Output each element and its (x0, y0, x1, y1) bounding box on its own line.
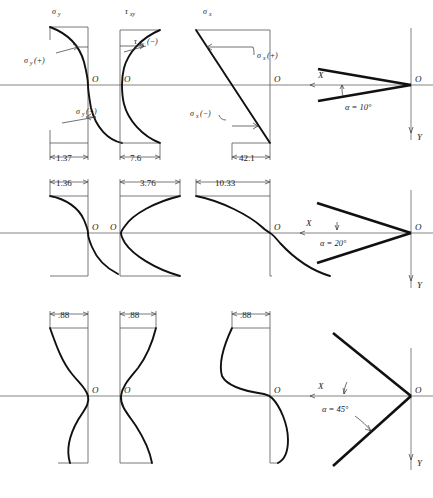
panel-sigma-x-20-curve (196, 196, 330, 276)
panel-sigma-y-10-origin: O (92, 74, 99, 84)
wedge-45-x-axis-label: X (317, 381, 324, 391)
panel-sigma-y-45-curve (50, 328, 88, 463)
panel-sigma-x-45-origin: O (274, 385, 281, 395)
wedge-10-origin: O (415, 74, 422, 84)
panel-tau-xy-45-dimension: .88 (120, 310, 156, 328)
panel-tau-xy-10-origin: O (124, 74, 131, 84)
panel-tau-xy-20-dimension-text: 3.76 (140, 178, 156, 188)
wedge-45-angle-label: α = 45° (322, 404, 349, 414)
panel-sigma-y-20-dimension: 1.36 (50, 178, 88, 196)
panel-sigma-y-10-dimension: 1.37 (50, 143, 88, 163)
svg-text:x: x (262, 55, 266, 61)
wedge-10-lower-edge (318, 85, 411, 101)
wedge-10-angle-label: α = 10° (345, 102, 372, 112)
svg-text:y: y (57, 11, 61, 17)
svg-text:σ: σ (52, 7, 57, 16)
svg-text:x: x (195, 113, 199, 119)
panel-sigma-y-20-dimension-text: 1.36 (56, 178, 72, 188)
wedge-45-y-axis-label: Y (417, 458, 423, 468)
panel-tau-xy-45: O .88 (120, 310, 156, 463)
panel-sigma-x-10-annotation-plus: σ x (+) (207, 44, 278, 61)
wedge-45-angle-leader (355, 416, 371, 431)
panel-tau-xy-45-origin: O (124, 385, 131, 395)
wedge-10-upper-edge (318, 69, 411, 85)
svg-text:xy: xy (129, 11, 136, 17)
panel-tau-xy-20-curve (121, 196, 180, 276)
svg-text:(−): (−) (147, 37, 158, 46)
svg-text:σ: σ (76, 107, 81, 116)
panel-sigma-y-10-dimension-text: 1.37 (56, 153, 72, 163)
svg-text:σ: σ (190, 109, 195, 118)
panel-tau-xy-20-origin: O (110, 222, 117, 232)
stress-distribution-figure: O σ y σ y (+) σ y (−) (0, 0, 433, 498)
panel-sigma-x-10-origin: O (274, 74, 281, 84)
svg-text:(+): (+) (34, 56, 45, 65)
panel-sigma-x-45-dimension: .88 (232, 310, 270, 328)
panel-sigma-x-10-dimension: 42.1 (232, 143, 270, 163)
panel-sigma-x-10-dimension-text: 42.1 (239, 153, 255, 163)
panel-tau-xy-10-annotation-minus: τ xy (−) (120, 37, 158, 52)
panel-sigma-y-10-annotation-minus: σ y (−) (62, 107, 97, 123)
panel-sigma-y-20-curve (50, 196, 118, 274)
wedge-20-y-axis-label: Y (417, 280, 423, 290)
wedge-45-angle-arc (344, 382, 347, 394)
svg-text:τ: τ (125, 7, 129, 16)
svg-text:(+): (+) (267, 51, 278, 60)
panel-tau-xy-45-curve (121, 328, 156, 463)
svg-text:(−): (−) (200, 109, 211, 118)
panel-sigma-y-45-dimension-text: .88 (58, 310, 70, 320)
wedge-20-origin: O (415, 222, 422, 232)
wedge-45-origin: O (415, 385, 422, 395)
panel-sigma-y-45: O .88 (50, 310, 99, 463)
wedge-45-upper-edge (333, 333, 411, 396)
svg-text:xy: xy (138, 41, 145, 47)
wedge-10-y-axis-label: Y (417, 132, 423, 142)
panel-tau-xy-45-dimension-text: .88 (128, 310, 140, 320)
panel-tau-xy-10-quantity-label: τ xy (125, 7, 136, 17)
panel-sigma-y-20-origin: O (92, 222, 99, 232)
panel-sigma-y-45-origin: O (92, 385, 99, 395)
panel-tau-xy-10-dimension: 7.6 (120, 143, 160, 163)
wedge-20-upper-edge (317, 203, 411, 233)
panel-sigma-y-45-dimension: .88 (50, 310, 88, 328)
wedge-alpha-20: α = 20° O X Y (300, 190, 423, 290)
svg-text:y: y (29, 60, 33, 66)
svg-text:y: y (81, 111, 85, 117)
wedge-20-x-axis-label: X (305, 218, 312, 228)
panel-sigma-x-20-dimension-text: 10.33 (215, 178, 236, 188)
panel-sigma-x-45-dimension-text: .88 (240, 310, 252, 320)
row-alpha-45: O .88 O .88 (0, 310, 433, 470)
panel-sigma-x-20-origin: O (274, 222, 281, 232)
panel-tau-xy-10-dimension-text: 7.6 (130, 153, 142, 163)
svg-text:σ: σ (257, 51, 262, 60)
panel-sigma-x-10-annotation-minus: σ x (−) (190, 109, 258, 129)
svg-text:(−): (−) (86, 107, 97, 116)
svg-text:σ: σ (203, 7, 208, 16)
panel-sigma-x-45: O .88 (221, 310, 288, 463)
svg-text:σ: σ (24, 56, 29, 65)
panel-sigma-y-20: O 1.36 (50, 178, 118, 276)
panel-tau-xy-20: O 3.76 (110, 178, 180, 276)
svg-text:x: x (208, 11, 212, 17)
wedge-45-angle-arrow (343, 388, 347, 394)
panel-sigma-x-10-quantity-label: σ x (203, 7, 212, 17)
panel-sigma-y-10-quantity-label: σ y (52, 7, 61, 17)
panel-sigma-x-20-dimension: 10.33 (196, 178, 270, 196)
panel-tau-xy-20-dimension: 3.76 (120, 178, 180, 196)
wedge-20-angle-label: α = 20° (320, 238, 347, 248)
wedge-alpha-45: α = 45° O X Y (310, 333, 423, 470)
row-alpha-10: O σ y σ y (+) σ y (−) (0, 7, 433, 163)
wedge-10-x-axis-label: X (317, 70, 324, 80)
panel-sigma-x-45-curve (221, 328, 288, 463)
row-alpha-20: O 1.36 O 3.76 (0, 178, 433, 290)
panel-sigma-y-10-annotation-plus: σ y (+) (24, 44, 88, 66)
